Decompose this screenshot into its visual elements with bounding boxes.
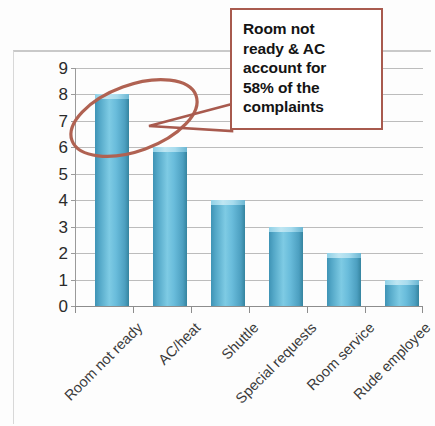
x-tick (365, 306, 366, 313)
y-axis-tick-label: 3 (46, 219, 68, 236)
bar-room-service (327, 253, 361, 306)
bar-cap (327, 253, 361, 258)
bar-cap (385, 280, 419, 285)
bar-rude-employee (385, 280, 419, 306)
y-axis-tick-label: 6 (46, 139, 68, 156)
bar-cap (95, 94, 129, 99)
y-tick (71, 253, 76, 254)
callout-line-1: Room not (243, 19, 373, 39)
y-tick (71, 200, 76, 201)
x-tick (75, 306, 76, 313)
y-tick (71, 94, 76, 95)
y-tick (71, 68, 76, 69)
bar-cap (269, 227, 303, 232)
y-axis-tick-label: 5 (46, 166, 68, 183)
callout-line-4: 58% of the (243, 78, 373, 98)
y-axis-tick-label: 7 (46, 113, 68, 130)
y-tick (71, 174, 76, 175)
callout-line-2: ready & AC (243, 39, 373, 59)
x-tick (422, 306, 423, 313)
y-axis-tick-label: 4 (46, 192, 68, 209)
callout-line-5: complaints (243, 97, 373, 117)
y-tick (71, 280, 76, 281)
bar-shuttle (211, 200, 245, 306)
y-axis-tick-label: 0 (46, 298, 68, 315)
bar-room-not-ready (95, 94, 129, 306)
callout-line-3: account for (243, 58, 373, 78)
y-axis-tick-label: 9 (46, 60, 68, 77)
bar-special-requests (269, 227, 303, 306)
bar-chart-image: 9 8 7 6 5 4 3 2 1 0 Room not ready AC/he… (0, 0, 435, 426)
y-axis-line (75, 68, 76, 307)
bar-cap (153, 147, 187, 152)
y-axis-tick-label: 2 (46, 245, 68, 262)
callout-box: Room not ready & AC account for 58% of t… (230, 8, 383, 130)
bar-ac-heat (153, 147, 187, 306)
y-axis-labels: 9 8 7 6 5 4 3 2 1 0 (44, 68, 68, 306)
x-tick (307, 306, 308, 313)
y-tick (71, 227, 76, 228)
x-tick (191, 306, 192, 313)
y-tick (71, 121, 76, 122)
y-axis-tick-label: 8 (46, 86, 68, 103)
x-tick (133, 306, 134, 313)
x-tick (249, 306, 250, 313)
y-axis-tick-label: 1 (46, 272, 68, 289)
y-tick (71, 147, 76, 148)
x-axis-line (75, 306, 423, 307)
bar-cap (211, 200, 245, 205)
